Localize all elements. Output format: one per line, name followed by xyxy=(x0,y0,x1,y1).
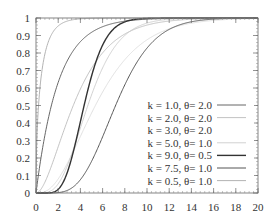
legend-label: k = 3.0, θ= 2.0 xyxy=(148,124,213,136)
legend-label: k = 9.0, θ= 0.5 xyxy=(148,149,213,161)
x-tick-label: 16 xyxy=(208,201,220,213)
y-tick-label: 0.8 xyxy=(16,47,30,59)
y-tick-label: 0.6 xyxy=(16,82,30,94)
x-tick-label: 4 xyxy=(78,201,84,213)
legend-label: k = 0.5, θ= 1.0 xyxy=(148,175,213,187)
gamma-cdf-chart: 00.10.20.30.40.50.60.70.80.91 0246810121… xyxy=(0,0,276,219)
legend-label: k = 1.0, θ= 2.0 xyxy=(148,99,213,111)
x-tick-label: 6 xyxy=(100,201,106,213)
y-tick-label: 1 xyxy=(25,12,31,24)
legend-label: k = 5.0, θ= 1.0 xyxy=(148,137,213,149)
x-tick-label: 12 xyxy=(164,201,175,213)
y-tick-label: 0 xyxy=(25,187,31,199)
x-tick-label: 0 xyxy=(33,201,39,213)
legend-label: k = 7.5, θ= 1.0 xyxy=(148,162,213,174)
y-tick-label: 0.7 xyxy=(16,65,30,77)
y-tick-label: 0.4 xyxy=(16,117,30,129)
x-tick-label: 18 xyxy=(230,201,242,213)
y-tick-label: 0.3 xyxy=(16,135,30,147)
x-tick-label: 20 xyxy=(253,201,265,213)
y-tick-label: 0.9 xyxy=(16,30,30,42)
x-tick-label: 14 xyxy=(186,201,198,213)
legend-label: k = 2.0, θ= 2.0 xyxy=(148,112,213,124)
y-tick-label: 0.2 xyxy=(16,152,30,164)
y-tick-label: 0.5 xyxy=(16,100,30,112)
y-tick-label: 0.1 xyxy=(16,170,30,182)
x-tick-label: 2 xyxy=(55,201,61,213)
legend: k = 1.0, θ= 2.0k = 2.0, θ= 2.0k = 3.0, θ… xyxy=(146,99,254,187)
x-tick-label: 8 xyxy=(122,201,128,213)
x-tick-label: 10 xyxy=(142,201,154,213)
